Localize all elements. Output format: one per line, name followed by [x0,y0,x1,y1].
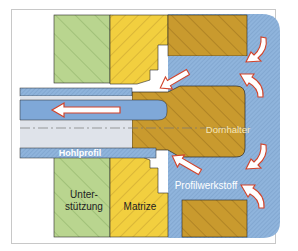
mandrel-holder [132,86,245,157]
extrusion-diagram: Dornhalter Hohlprofil Unter- stützung Ma… [0,0,298,251]
holder-top-block [168,15,247,56]
label-dornhalter: Dornhalter [206,124,250,135]
label-profilwerkstoff: Profilwerkstoff [175,180,238,191]
label-matrize: Matrize [124,201,157,212]
diagram-canvas: Dornhalter Hohlprofil Unter- stützung Ma… [0,0,298,251]
support-top [54,15,110,83]
label-unterstuetzung-line1: Unter- [70,189,98,200]
label-unterstuetzung-line2: stützung [65,201,103,212]
holder-bottom-block [182,200,247,237]
label-hohlprofil: Hohlprofil [59,148,102,158]
material-gap [168,56,247,60]
hollow-profile-top-wall [20,88,132,96]
